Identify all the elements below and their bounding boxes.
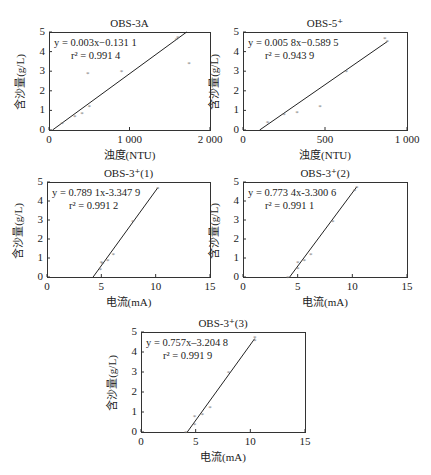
x-axis-label: 电流(mA) xyxy=(163,448,283,464)
x-tick-label: 10 xyxy=(230,435,270,447)
y-tick-label: 2 xyxy=(123,385,137,397)
data-point: * xyxy=(193,413,197,421)
data-point: * xyxy=(200,411,204,419)
r-squared: r² = 0.991 9 xyxy=(163,349,212,362)
x-tick-label: 5 xyxy=(176,435,216,447)
data-point: * xyxy=(227,369,231,377)
y-tick-label: 5 xyxy=(123,325,137,337)
data-point: * xyxy=(253,334,257,342)
regression-equation: y = 0.757x–3.204 8 xyxy=(146,336,228,349)
x-tick-label: 0 xyxy=(121,435,161,447)
plot-graphics: ******** xyxy=(0,0,431,475)
data-point: * xyxy=(208,404,212,412)
y-tick-label: 1 xyxy=(123,405,137,417)
y-tick-label: 4 xyxy=(123,345,137,357)
y-tick-label: 3 xyxy=(123,365,137,377)
y-axis-label: 含沙量(g/L) xyxy=(103,338,119,428)
data-point: * xyxy=(193,421,197,429)
x-tick-label: 15 xyxy=(285,435,325,447)
